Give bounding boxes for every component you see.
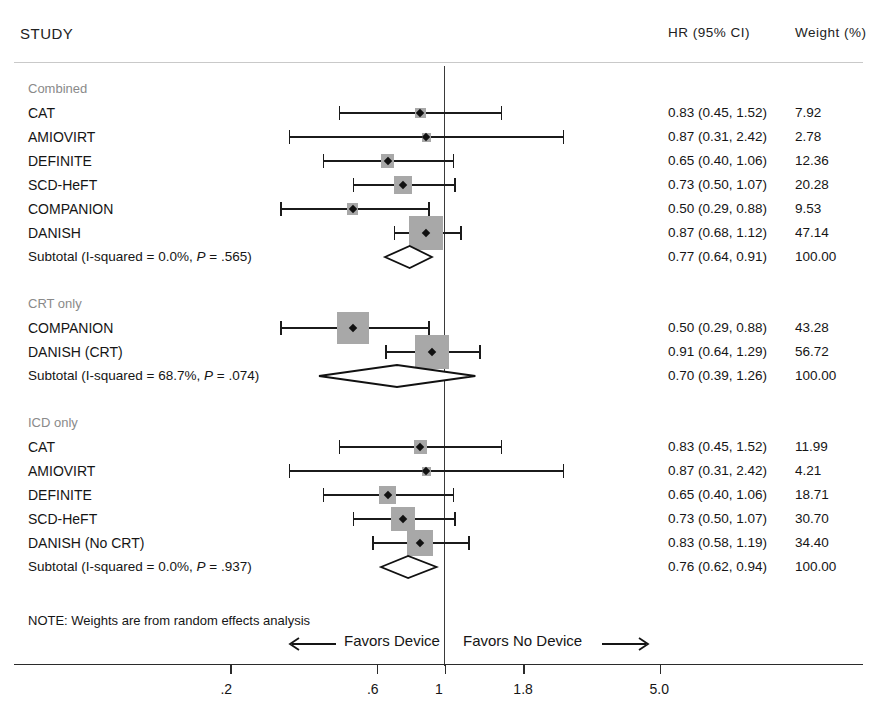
subtotal-effect-1: 0.70 (0.39, 1.26) bbox=[668, 369, 767, 383]
ci-cap-right-2-3 bbox=[454, 512, 456, 526]
ci-cap-left-0-4 bbox=[280, 202, 282, 216]
ci-cap-right-0-0 bbox=[501, 106, 503, 120]
study-label-2-4: DANISH (No CRT) bbox=[28, 536, 144, 550]
subtotal-weight-0: 100.00 bbox=[795, 250, 836, 264]
study-label-1-1: DANISH (CRT) bbox=[28, 345, 123, 359]
group-label-1: CRT only bbox=[28, 297, 82, 310]
study-label-0-5: DANISH bbox=[28, 226, 81, 240]
ci-cap-right-2-4 bbox=[468, 536, 470, 550]
study-label-0-1: AMIOVIRT bbox=[28, 130, 95, 144]
effect-value-2-1: 0.87 (0.31, 2.42) bbox=[668, 464, 767, 478]
ci-cap-left-1-1 bbox=[385, 345, 387, 359]
ci-cap-right-0-2 bbox=[453, 154, 455, 168]
effect-value-0-3: 0.73 (0.50, 1.07) bbox=[668, 178, 767, 192]
ci-cap-right-0-3 bbox=[454, 178, 456, 192]
ci-cap-left-2-3 bbox=[353, 512, 355, 526]
effect-value-2-2: 0.65 (0.40, 1.06) bbox=[668, 488, 767, 502]
effect-value-0-4: 0.50 (0.29, 0.88) bbox=[668, 202, 767, 216]
study-label-2-1: AMIOVIRT bbox=[28, 464, 95, 478]
effect-value-2-4: 0.83 (0.58, 1.19) bbox=[668, 536, 767, 550]
effect-value-0-1: 0.87 (0.31, 2.42) bbox=[668, 130, 767, 144]
study-label-0-3: SCD-HeFT bbox=[28, 178, 97, 192]
ci-cap-right-1-1 bbox=[479, 345, 481, 359]
summary-diamond-0 bbox=[385, 246, 432, 268]
weight-value-2-3: 30.70 bbox=[795, 512, 829, 526]
ci-cap-left-0-0 bbox=[339, 106, 341, 120]
summary-diamond-2 bbox=[381, 556, 436, 578]
favors-no-device-label: Favors No Device bbox=[463, 633, 582, 648]
ci-cap-right-0-5 bbox=[460, 226, 462, 240]
column-header-study: STUDY bbox=[20, 26, 73, 41]
x-tick-label-3: 1.8 bbox=[513, 682, 532, 696]
summary-diamond-1 bbox=[319, 365, 475, 387]
weight-value-0-4: 9.53 bbox=[795, 202, 821, 216]
weight-value-1-0: 43.28 bbox=[795, 321, 829, 335]
ci-cap-left-0-2 bbox=[323, 154, 325, 168]
x-tick-3 bbox=[523, 665, 524, 674]
study-label-0-2: DEFINITE bbox=[28, 154, 92, 168]
x-tick-label-0: .2 bbox=[220, 682, 232, 696]
effect-value-0-0: 0.83 (0.45, 1.52) bbox=[668, 106, 767, 120]
header-divider bbox=[14, 62, 863, 63]
effect-value-2-0: 0.83 (0.45, 1.52) bbox=[668, 440, 767, 454]
study-label-2-0: CAT bbox=[28, 440, 55, 454]
study-label-1-0: COMPANION bbox=[28, 321, 113, 335]
study-label-0-4: COMPANION bbox=[28, 202, 113, 216]
x-tick-label-2: 1 bbox=[435, 682, 443, 696]
forest-plot: STUDY HR (95% CI) Weight (%) CombinedCAT… bbox=[0, 0, 877, 704]
study-label-2-2: DEFINITE bbox=[28, 488, 92, 502]
ci-cap-right-2-0 bbox=[501, 440, 503, 454]
ci-cap-right-2-1 bbox=[563, 464, 565, 478]
ci-cap-left-0-1 bbox=[289, 130, 291, 144]
ci-cap-left-2-0 bbox=[339, 440, 341, 454]
effect-value-2-3: 0.73 (0.50, 1.07) bbox=[668, 512, 767, 526]
weight-value-0-5: 47.14 bbox=[795, 226, 829, 240]
subtotal-label-1: Subtotal (I-squared = 68.7%, P = .074) bbox=[28, 369, 259, 383]
x-tick-label-4: 5.0 bbox=[650, 682, 669, 696]
x-tick-1 bbox=[377, 665, 378, 674]
effect-value-1-0: 0.50 (0.29, 0.88) bbox=[668, 321, 767, 335]
subtotal-effect-0: 0.77 (0.64, 0.91) bbox=[668, 250, 767, 264]
weight-value-0-0: 7.92 bbox=[795, 106, 821, 120]
weight-value-2-2: 18.71 bbox=[795, 488, 829, 502]
study-label-2-3: SCD-HeFT bbox=[28, 512, 97, 526]
x-tick-0 bbox=[230, 665, 231, 674]
favors-device-label: Favors Device bbox=[344, 633, 440, 648]
weight-value-0-2: 12.36 bbox=[795, 154, 829, 168]
ci-cap-left-1-0 bbox=[280, 321, 282, 335]
effect-value-1-1: 0.91 (0.64, 1.29) bbox=[668, 345, 767, 359]
effect-value-0-5: 0.87 (0.68, 1.12) bbox=[668, 226, 767, 240]
ci-cap-right-2-2 bbox=[453, 488, 455, 502]
subtotal-effect-2: 0.76 (0.62, 0.94) bbox=[668, 560, 767, 574]
arrow-right-icon bbox=[600, 637, 652, 651]
group-label-2: ICD only bbox=[28, 416, 78, 429]
ci-cap-right-0-1 bbox=[563, 130, 565, 144]
ci-cap-left-0-3 bbox=[353, 178, 355, 192]
weight-value-0-3: 20.28 bbox=[795, 178, 829, 192]
ci-cap-right-0-4 bbox=[428, 202, 430, 216]
subtotal-weight-2: 100.00 bbox=[795, 560, 836, 574]
weight-value-0-1: 2.78 bbox=[795, 130, 821, 144]
ci-cap-left-2-4 bbox=[372, 536, 374, 550]
ci-cap-left-0-5 bbox=[394, 226, 396, 240]
group-label-0: Combined bbox=[28, 82, 87, 95]
ci-cap-left-2-1 bbox=[289, 464, 291, 478]
x-tick-4 bbox=[660, 665, 661, 674]
subtotal-label-2: Subtotal (I-squared = 0.0%, P = .937) bbox=[28, 560, 252, 574]
effect-value-0-2: 0.65 (0.40, 1.06) bbox=[668, 154, 767, 168]
study-label-0-0: CAT bbox=[28, 106, 55, 120]
x-axis-line bbox=[14, 664, 863, 665]
column-header-weight: Weight (%) bbox=[795, 26, 867, 40]
subtotal-weight-1: 100.00 bbox=[795, 369, 836, 383]
weight-value-2-4: 34.40 bbox=[795, 536, 829, 550]
ci-cap-right-1-0 bbox=[428, 321, 430, 335]
arrow-left-icon bbox=[286, 637, 338, 651]
weight-value-2-0: 11.99 bbox=[795, 440, 828, 454]
weight-value-2-1: 4.21 bbox=[795, 464, 821, 478]
subtotal-label-0: Subtotal (I-squared = 0.0%, P = .565) bbox=[28, 250, 252, 264]
x-tick-2 bbox=[445, 665, 446, 674]
ci-cap-left-2-2 bbox=[323, 488, 325, 502]
note-text: NOTE: Weights are from random effects an… bbox=[28, 614, 310, 627]
weight-value-1-1: 56.72 bbox=[795, 345, 829, 359]
column-header-effect: HR (95% CI) bbox=[668, 26, 750, 40]
